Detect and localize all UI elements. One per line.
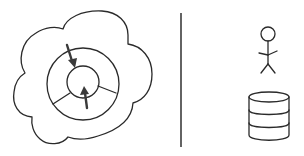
person-icon <box>259 27 277 73</box>
cloud-shape <box>14 11 152 144</box>
ring-divider-left <box>53 93 70 104</box>
diagram-canvas <box>0 0 304 156</box>
ring-divider-right <box>98 86 116 93</box>
database-icon <box>249 92 289 140</box>
outer-ring <box>47 48 119 120</box>
